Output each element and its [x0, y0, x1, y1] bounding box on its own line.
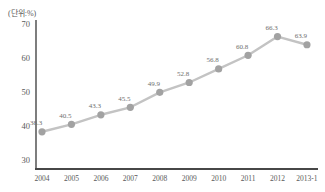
data-point-label: 38.3 — [30, 119, 43, 127]
data-point-marker — [186, 79, 193, 86]
data-point-marker — [68, 121, 75, 128]
data-point-marker — [215, 65, 222, 72]
data-point-label: 49.9 — [148, 80, 161, 88]
x-tick-label: 2011 — [241, 174, 256, 183]
data-point-marker — [274, 33, 281, 40]
data-point-marker — [38, 128, 45, 135]
line-chart: 3040506070200420052006200720082009201020… — [0, 0, 325, 192]
data-point-label: 63.9 — [295, 32, 308, 40]
y-tick-label: 60 — [22, 53, 31, 63]
x-tick-label: 2008 — [152, 174, 167, 183]
x-tick-label: 2013-1 — [296, 174, 317, 183]
data-point-label: 45.5 — [118, 95, 131, 103]
data-point-label: 40.5 — [59, 112, 72, 120]
x-tick-label: 2010 — [211, 174, 226, 183]
data-point-marker — [244, 52, 251, 59]
y-tick-label: 70 — [22, 19, 31, 29]
data-point-label: 56.8 — [207, 56, 220, 64]
x-tick-label: 2009 — [182, 174, 197, 183]
series-line — [42, 37, 307, 132]
unit-label: (단위:%) — [8, 7, 36, 18]
x-tick-label: 2006 — [93, 174, 108, 183]
data-point-label: 66.3 — [265, 24, 278, 32]
y-tick-label: 40 — [22, 121, 31, 131]
x-tick-label: 2012 — [270, 174, 285, 183]
data-point-marker — [127, 104, 134, 111]
data-point-label: 43.3 — [89, 102, 102, 110]
data-point-label: 52.8 — [177, 70, 190, 78]
data-point-marker — [303, 41, 310, 48]
y-tick-label: 30 — [22, 155, 31, 165]
data-point-label: 60.8 — [236, 43, 249, 51]
chart-canvas: (단위:%) 304050607020042005200620072008200… — [0, 0, 325, 192]
data-point-marker — [156, 89, 163, 96]
x-tick-label: 2007 — [123, 174, 138, 183]
data-point-marker — [97, 111, 104, 118]
y-tick-label: 50 — [22, 87, 31, 97]
x-tick-label: 2005 — [64, 174, 79, 183]
x-tick-label: 2004 — [35, 174, 50, 183]
